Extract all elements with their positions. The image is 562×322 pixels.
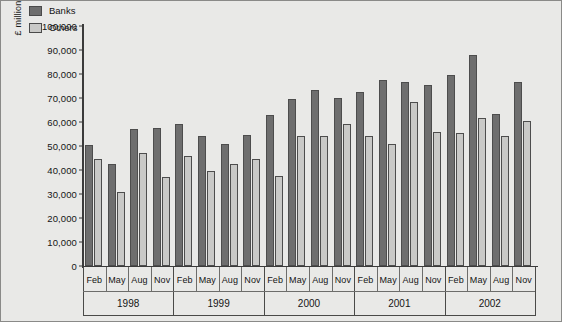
- bar-banks[interactable]: [334, 98, 342, 266]
- x-axis-month-separator: [399, 267, 400, 292]
- x-axis-month-label: Aug: [219, 270, 242, 290]
- bar-others[interactable]: [230, 164, 238, 266]
- bar-others[interactable]: [297, 136, 305, 266]
- bar-group: [467, 26, 490, 266]
- bar-banks[interactable]: [379, 80, 387, 266]
- bar-banks[interactable]: [221, 144, 229, 266]
- bar-others[interactable]: [207, 171, 215, 266]
- bar-others[interactable]: [433, 132, 441, 266]
- bar-others[interactable]: [343, 124, 351, 266]
- bar-group: [286, 26, 309, 266]
- x-axis-month-separator: [377, 267, 378, 292]
- bar-group: [377, 26, 400, 266]
- x-axis-month-separator: [128, 267, 129, 292]
- bar-banks[interactable]: [153, 128, 161, 266]
- bar-banks[interactable]: [401, 82, 409, 266]
- bar-others[interactable]: [94, 159, 102, 266]
- bar-banks[interactable]: [108, 164, 116, 266]
- bar-others[interactable]: [501, 136, 509, 266]
- bar-group: [106, 26, 129, 266]
- bar-others[interactable]: [139, 153, 147, 266]
- plot-area: 100,00090,00080,00070,00060,00050,00040,…: [83, 26, 535, 266]
- bar-banks[interactable]: [85, 145, 93, 266]
- x-axis-month-label: May: [106, 270, 129, 290]
- legend-item-label: Others: [49, 22, 78, 33]
- x-axis-month-rule: [83, 291, 535, 292]
- legend-item-others[interactable]: Others: [29, 19, 78, 36]
- legend-swatch-icon: [29, 6, 42, 16]
- x-axis-year-label: 1999: [173, 294, 263, 314]
- bar-others[interactable]: [252, 159, 260, 266]
- bar-banks[interactable]: [198, 136, 206, 266]
- x-axis-month-separator: [151, 267, 152, 292]
- x-axis-year-rule: [83, 315, 535, 316]
- bar-others[interactable]: [456, 133, 464, 266]
- bar-banks[interactable]: [447, 75, 455, 266]
- x-axis-month-label: Aug: [128, 270, 151, 290]
- bar-group: [196, 26, 219, 266]
- bar-group: [83, 26, 106, 266]
- bar-others[interactable]: [365, 136, 373, 266]
- bar-others[interactable]: [388, 144, 396, 266]
- bar-group: [445, 26, 468, 266]
- x-axis-month-label: Feb: [445, 270, 468, 290]
- x-axis-month-label: May: [377, 270, 400, 290]
- bar-others[interactable]: [410, 102, 418, 266]
- x-axis-month-label: Feb: [173, 270, 196, 290]
- x-axis-month-separator: [196, 267, 197, 292]
- y-axis-tick-label: 20,000: [47, 213, 77, 224]
- bar-banks[interactable]: [243, 135, 251, 266]
- y-axis-title: £ million: [13, 0, 23, 63]
- bar-others[interactable]: [184, 156, 192, 266]
- bar-banks[interactable]: [424, 85, 432, 266]
- bar-banks[interactable]: [469, 55, 477, 266]
- x-axis-month-label: Aug: [490, 270, 513, 290]
- bar-group: [241, 26, 264, 266]
- x-axis-month-label: Aug: [399, 270, 422, 290]
- bar-banks[interactable]: [311, 90, 319, 266]
- bar-banks[interactable]: [266, 115, 274, 266]
- x-axis-month-label: Aug: [309, 270, 332, 290]
- x-axis-month-separator: [332, 267, 333, 292]
- bar-group: [128, 26, 151, 266]
- bar-others[interactable]: [523, 121, 531, 266]
- bar-series-container: [83, 26, 535, 266]
- bar-banks[interactable]: [288, 99, 296, 266]
- bar-others[interactable]: [275, 176, 283, 266]
- bar-banks[interactable]: [130, 129, 138, 266]
- y-axis-tick-label: 80,000: [47, 69, 77, 80]
- bar-group: [309, 26, 332, 266]
- bar-banks[interactable]: [175, 124, 183, 266]
- bar-group: [490, 26, 513, 266]
- bar-others[interactable]: [478, 118, 486, 266]
- y-axis-tick-label: 40,000: [47, 165, 77, 176]
- bar-group: [219, 26, 242, 266]
- chart-legend: BanksOthers: [29, 2, 78, 36]
- x-axis-month-separator: [286, 267, 287, 292]
- bar-group: [354, 26, 377, 266]
- bar-banks[interactable]: [492, 114, 500, 266]
- x-axis-year-label: 2002: [445, 294, 535, 314]
- x-axis-month-separator: [106, 267, 107, 292]
- bar-banks[interactable]: [514, 82, 522, 266]
- bar-others[interactable]: [320, 136, 328, 266]
- y-axis-tick-label: 30,000: [47, 189, 77, 200]
- y-axis-tick-label: 70,000: [47, 93, 77, 104]
- x-axis-month-label: Nov: [422, 270, 445, 290]
- x-axis-month-label: Nov: [512, 270, 535, 290]
- y-axis-tick-label: 90,000: [47, 45, 77, 56]
- x-axis-month-label: May: [196, 270, 219, 290]
- legend-item-banks[interactable]: Banks: [29, 2, 78, 19]
- bar-others[interactable]: [117, 192, 125, 266]
- x-axis-year-label: 2001: [354, 294, 444, 314]
- bar-group: [173, 26, 196, 266]
- x-axis-month-label: May: [286, 270, 309, 290]
- bar-others[interactable]: [162, 177, 170, 266]
- x-axis-year-label: 1998: [83, 294, 173, 314]
- x-axis-year-label: 2000: [264, 294, 354, 314]
- x-axis-month-separator: [219, 267, 220, 292]
- x-axis-month-separator: [467, 267, 468, 292]
- x-axis-month-label: Nov: [151, 270, 174, 290]
- bar-banks[interactable]: [356, 92, 364, 266]
- x-axis-year-separator: [535, 267, 536, 316]
